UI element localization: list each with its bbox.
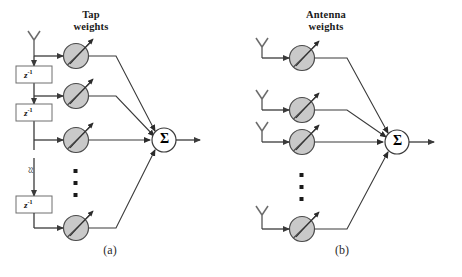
delay-box-1 (16, 66, 52, 83)
panel-a-caption: (a) (80, 243, 140, 258)
summation-input-lines (89, 56, 155, 228)
antenna-icon-4 (256, 206, 268, 229)
antenna-icon-2 (256, 90, 268, 110)
antenna-icon-3 (256, 122, 268, 142)
summation-input-lines (315, 58, 388, 229)
antenna-icon (28, 31, 40, 56)
delay-box-3 (16, 196, 52, 213)
antenna-weight-1 (290, 41, 320, 71)
tap-weight-1 (64, 39, 94, 69)
delay-box-2-label: z-1 (24, 107, 33, 118)
delay-box-3-label: z-1 (24, 199, 33, 210)
tap-weight-4 (64, 211, 94, 241)
panel-b-diagram (231, 0, 462, 277)
panel-b-antenna-array: Antenna weights (231, 0, 462, 277)
antenna-weight-4 (290, 212, 320, 242)
tap-weight-2 (64, 79, 94, 109)
summation-symbol: Σ (389, 133, 406, 149)
panel-b-caption: (b) (312, 243, 372, 258)
antenna-weight-2 (290, 93, 320, 123)
summation-symbol: Σ (156, 131, 173, 147)
panel-a-tapped-delay-line: Tap weights (0, 0, 231, 277)
line-break-symbol: ≈ (25, 167, 37, 173)
vertical-dots (74, 169, 78, 197)
tap-weight-3 (64, 123, 94, 153)
antenna-icon-1 (256, 38, 268, 58)
antenna-weight-3 (290, 125, 320, 155)
vertical-dots (300, 173, 304, 201)
delay-box-1-label: z-1 (24, 69, 33, 80)
figure-root: Tap weights (0, 0, 462, 277)
panel-a-diagram (0, 0, 231, 277)
delay-box-2 (16, 104, 52, 121)
